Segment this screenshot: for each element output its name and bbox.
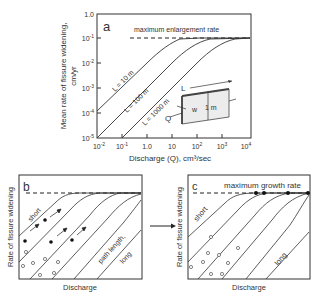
panel-b-y-axis-title: Rate of fissure widening: [6, 187, 15, 267]
y-tick-label: 1.0: [84, 11, 94, 18]
y-tick-label: 10-5: [82, 133, 94, 142]
panel-c-x-axis-title: Discharge: [232, 283, 266, 292]
x-tick-label: 104: [241, 141, 252, 150]
max-enlargement-label: maximum enlargement rate: [134, 26, 219, 34]
label-l-10m: L = 10 m: [111, 68, 135, 92]
panel-a-y-axis-title-1: Mean rate of fissure widening,: [59, 23, 68, 130]
inflow-line: [170, 113, 182, 117]
figure: a 1.0 10-1 10-2 10-3 10-4 10-5 10-2 10-1: [0, 0, 321, 302]
length-arrow: [190, 81, 232, 88]
panel-c-short-label: short: [192, 204, 210, 223]
x-tick-label: 10-2: [93, 141, 105, 150]
inset-height-label: 1 m: [205, 104, 217, 111]
panel-a: a 1.0 10-1 10-2 10-3 10-4 10-5 10-2 10-1: [59, 11, 252, 163]
x-tick-label: 1.0: [142, 143, 152, 150]
x-tick-label: 10-1: [116, 141, 128, 150]
label-l-100m: L = 100 m: [123, 87, 150, 114]
y-tick-label: 10-2: [82, 58, 94, 67]
y-tick-label: 10-1: [82, 33, 94, 42]
panel-a-letter: a: [103, 19, 111, 34]
transition-arrow: [150, 224, 176, 229]
outflow-arrow: [229, 99, 236, 101]
panel-a-x-axis-title: Discharge (Q), cm³/sec: [129, 154, 211, 163]
panel-b-short-label: short: [27, 206, 43, 222]
x-tick-label: 10: [168, 143, 176, 150]
panel-a-x-tick-labels: 10-2 10-1 1.0 10 102 103 104: [93, 141, 252, 150]
inset-width-label: w: [191, 106, 198, 113]
panel-b: b short path length, long: [6, 175, 142, 292]
panel-c: c maximum growth rate short long: [175, 175, 310, 292]
panel-c-max-growth-label: maximum growth rate: [224, 181, 301, 190]
panel-b-x-axis-title: Discharge: [63, 283, 97, 292]
inset-discharge-label: Q: [165, 114, 171, 123]
panel-c-curves: [188, 193, 309, 279]
panel-c-frame: [188, 175, 310, 279]
fissure-inset: 1 m w L Q: [165, 80, 236, 124]
panel-b-letter: b: [23, 180, 30, 194]
panel-c-y-axis-title: Rate of fissure widening: [175, 187, 184, 267]
x-tick-label: 102: [192, 141, 203, 150]
inset-length-label: L: [181, 84, 186, 93]
panel-a-y-tick-labels: 1.0 10-1 10-2 10-3 10-4 10-5: [82, 11, 94, 142]
panel-a-y-axis-title-2: cm/yr: [69, 66, 78, 86]
x-tick-label: 103: [217, 141, 228, 150]
panel-c-letter: c: [192, 180, 198, 192]
panel-b-open-circles: [21, 250, 59, 276]
y-tick-label: 10-4: [82, 108, 94, 117]
panel-c-long-label: long: [273, 251, 289, 268]
y-tick-label: 10-3: [82, 83, 94, 92]
panel-c-open-circles: [189, 235, 239, 275]
